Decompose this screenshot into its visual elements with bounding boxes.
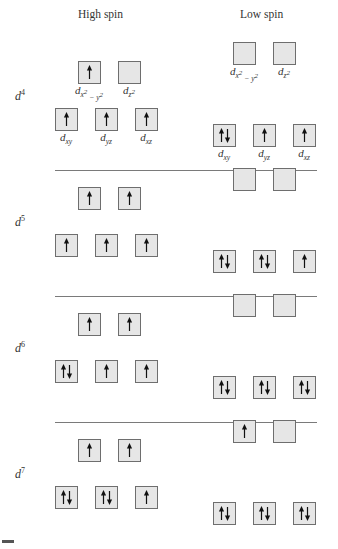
spin-up-arrow-icon: [234, 421, 255, 442]
ls-d7-dyz-box: [253, 502, 276, 525]
ls-label-dx2y2: dx2 − y2: [224, 65, 264, 83]
cropped-caption-fragment: [2, 540, 14, 543]
ls-d5-dxz-box: [293, 250, 316, 273]
hs-d4-dxy-box: [55, 108, 78, 131]
hs-d7-dz2-box: [118, 439, 141, 462]
hs-label-dxy: dxy: [46, 131, 86, 146]
header-high-spin: High spin: [78, 8, 123, 20]
spin-up-arrow-icon: [96, 109, 117, 130]
spin-pair-arrows-icon: [254, 503, 275, 524]
ls-d4-dyz-box: [253, 124, 276, 147]
hs-label-dxz: dxz: [126, 131, 166, 146]
hs-d5-dx2y2-box: [78, 187, 101, 210]
spin-up-arrow-icon: [136, 361, 157, 382]
spin-pair-arrows-icon: [56, 361, 77, 382]
ls-d6-dz2-box: [273, 294, 296, 317]
hs-d5-dyz-box: [95, 234, 118, 257]
spin-up-arrow-icon: [79, 440, 100, 461]
hs-d7-dxy-box: [55, 486, 78, 509]
spin-pair-arrows-icon: [214, 125, 235, 146]
hs-d6-dx2y2-box: [78, 313, 101, 336]
hs-d7-dyz-box: [95, 486, 118, 509]
hs-d6-dyz-box: [95, 360, 118, 383]
ls-d4-dz2-box: [273, 42, 296, 65]
hs-d5-dxz-box: [135, 234, 158, 257]
spin-up-arrow-icon: [254, 125, 275, 146]
hs-d6-dxz-box: [135, 360, 158, 383]
header-low-spin: Low spin: [240, 8, 283, 20]
config-label-d4: d4: [15, 88, 25, 104]
hs-d6-dz2-box: [118, 313, 141, 336]
ls-label-dz2: dz2: [264, 65, 304, 80]
spin-pair-arrows-icon: [214, 377, 235, 398]
hs-label-dz2: dz2: [109, 84, 149, 99]
spin-up-arrow-icon: [136, 235, 157, 256]
spin-pair-arrows-icon: [96, 487, 117, 508]
spin-up-arrow-icon: [119, 188, 140, 209]
spin-up-arrow-icon: [79, 314, 100, 335]
spin-up-arrow-icon: [136, 109, 157, 130]
hs-d4-dx2y2-box: [78, 61, 101, 84]
spin-pair-arrows-icon: [254, 251, 275, 272]
spin-pair-arrows-icon: [214, 503, 235, 524]
ls-d5-dyz-box: [253, 250, 276, 273]
hs-d7-dxz-box: [135, 486, 158, 509]
hs-d4-dxz-box: [135, 108, 158, 131]
hs-d4-dyz-box: [95, 108, 118, 131]
ls-d5-dx2y2-box: [233, 168, 256, 191]
spin-up-arrow-icon: [294, 251, 315, 272]
ls-d7-dz2-box: [273, 420, 296, 443]
config-label-d7: d7: [15, 466, 25, 482]
ls-d7-dxz-box: [293, 502, 316, 525]
hs-d7-dx2y2-box: [78, 439, 101, 462]
spin-up-arrow-icon: [96, 235, 117, 256]
spin-pair-arrows-icon: [214, 251, 235, 272]
spin-up-arrow-icon: [119, 440, 140, 461]
spin-pair-arrows-icon: [294, 503, 315, 524]
ls-label-dyz: dyz: [244, 147, 284, 162]
ls-d6-dx2y2-box: [233, 294, 256, 317]
spin-up-arrow-icon: [56, 235, 77, 256]
hs-label-dx2y2: dx2 − y2: [69, 84, 109, 102]
spin-up-arrow-icon: [96, 361, 117, 382]
config-label-d5: d5: [15, 214, 25, 230]
ls-d4-dxy-box: [213, 124, 236, 147]
ls-label-dxz: dxz: [284, 147, 324, 162]
spin-up-arrow-icon: [294, 125, 315, 146]
spin-up-arrow-icon: [136, 487, 157, 508]
hs-d4-dz2-box: [118, 61, 141, 84]
spin-pair-arrows-icon: [254, 377, 275, 398]
ls-d6-dxz-box: [293, 376, 316, 399]
ls-label-dxy: dxy: [204, 147, 244, 162]
ls-d4-dxz-box: [293, 124, 316, 147]
ls-d7-dxy-box: [213, 502, 236, 525]
config-label-d6: d6: [15, 340, 25, 356]
spin-pair-arrows-icon: [56, 487, 77, 508]
ls-d5-dz2-box: [273, 168, 296, 191]
hs-d6-dxy-box: [55, 360, 78, 383]
spin-up-arrow-icon: [119, 314, 140, 335]
ls-d7-dx2y2-box: [233, 420, 256, 443]
spin-up-arrow-icon: [56, 109, 77, 130]
ls-d6-dxy-box: [213, 376, 236, 399]
ls-d6-dyz-box: [253, 376, 276, 399]
hs-d5-dxy-box: [55, 234, 78, 257]
hs-label-dyz: dyz: [86, 131, 126, 146]
spin-up-arrow-icon: [79, 188, 100, 209]
ls-d4-dx2y2-box: [233, 42, 256, 65]
hs-d5-dz2-box: [118, 187, 141, 210]
spin-up-arrow-icon: [79, 62, 100, 83]
spin-pair-arrows-icon: [294, 377, 315, 398]
ls-d5-dxy-box: [213, 250, 236, 273]
